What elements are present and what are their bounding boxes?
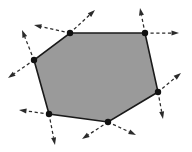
polygon-diagram <box>0 0 192 152</box>
vertex-marker <box>31 57 37 63</box>
vertex-marker <box>142 30 148 36</box>
vertex-marker <box>105 119 111 125</box>
vertex-marker <box>67 30 73 36</box>
figure-root <box>0 0 192 152</box>
vertex-marker <box>46 111 52 117</box>
vertex-marker <box>155 89 161 95</box>
